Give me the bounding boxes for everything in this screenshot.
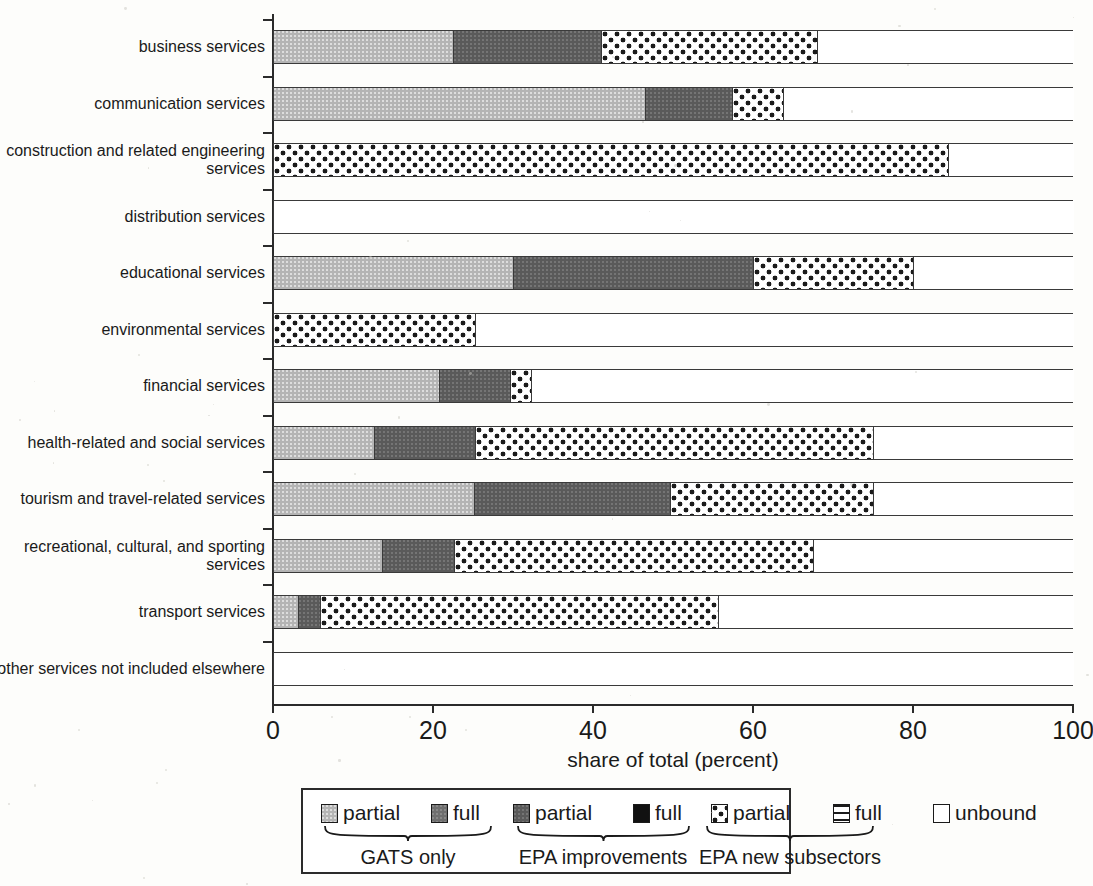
bar-row bbox=[273, 87, 1073, 121]
legend-group-label: GATS only bbox=[360, 846, 455, 869]
bar-outline bbox=[273, 426, 1073, 460]
category-label: distribution services bbox=[0, 208, 265, 226]
bar-segment-unbound bbox=[874, 427, 1074, 459]
legend-item-new-full[interactable]: full bbox=[833, 798, 882, 828]
y-tick bbox=[263, 132, 273, 134]
paper-speck bbox=[850, 483, 853, 486]
y-tick bbox=[263, 245, 273, 247]
paper-speck bbox=[208, 415, 210, 417]
bar-segment-epa-partial bbox=[475, 483, 671, 515]
bar-segment-unbound bbox=[814, 540, 1074, 572]
paper-speck bbox=[316, 388, 317, 389]
legend-item-epa-partial[interactable]: partial bbox=[513, 798, 592, 828]
bar-segment-new-partial bbox=[274, 314, 476, 346]
bar-segment-unbound bbox=[476, 314, 1074, 346]
bar-segment-gats-partial bbox=[274, 540, 383, 572]
bar-row bbox=[273, 652, 1073, 686]
bar-segment-epa-partial bbox=[514, 257, 754, 289]
paper-speck bbox=[907, 64, 909, 66]
paper-speck bbox=[642, 121, 643, 122]
bar-row bbox=[273, 256, 1073, 290]
legend-swatch-unbound-icon bbox=[933, 804, 950, 823]
bar-outline bbox=[273, 313, 1073, 347]
x-tick-label: 40 bbox=[579, 716, 607, 745]
paper-speck bbox=[892, 824, 894, 826]
bar-segment-new-partial bbox=[602, 31, 818, 63]
bar-segment-gats-partial bbox=[274, 257, 514, 289]
x-tick-label: 60 bbox=[739, 716, 767, 745]
paper-speck bbox=[680, 220, 681, 221]
paper-speck bbox=[409, 716, 411, 718]
bar-segment-gats-partial bbox=[274, 370, 440, 402]
paper-speck bbox=[612, 518, 614, 520]
legend-item-epa-full[interactable]: full bbox=[633, 798, 682, 828]
bar-segment-new-partial bbox=[733, 88, 784, 120]
bar-segment-unbound bbox=[949, 144, 1074, 176]
legend-label: partial bbox=[343, 801, 400, 825]
bar-row bbox=[273, 200, 1073, 234]
bar-segment-gats-partial bbox=[274, 596, 299, 628]
bar-outline bbox=[273, 87, 1073, 121]
plot-bars bbox=[273, 14, 1073, 704]
bar-row bbox=[273, 313, 1073, 347]
legend-label: unbound bbox=[955, 801, 1037, 825]
legend-brace-icon bbox=[705, 826, 875, 842]
paper-speck bbox=[469, 372, 472, 375]
category-label: educational services bbox=[0, 264, 265, 282]
category-label: business services bbox=[0, 38, 265, 56]
legend-label: partial bbox=[535, 801, 592, 825]
category-label: environmental services bbox=[0, 321, 265, 339]
paper-speck bbox=[165, 769, 167, 771]
bar-segment-gats-partial bbox=[274, 427, 375, 459]
bar-segment-new-partial bbox=[321, 596, 719, 628]
legend-item-new-partial[interactable]: partial bbox=[711, 798, 790, 828]
x-tick-label: 100 bbox=[1052, 716, 1093, 745]
y-tick bbox=[263, 302, 273, 304]
bar-segment-epa-partial bbox=[454, 31, 602, 63]
legend-item-unbound[interactable]: unbound bbox=[933, 798, 1037, 828]
bar-outline bbox=[273, 595, 1073, 629]
bar-outline bbox=[273, 143, 1073, 177]
y-tick bbox=[263, 415, 273, 417]
y-tick bbox=[263, 528, 273, 530]
legend-item-gats-partial[interactable]: partial bbox=[321, 798, 400, 828]
y-tick bbox=[263, 584, 273, 586]
paper-speck bbox=[143, 877, 145, 879]
chart-area: 020406080100 business servicescommunicat… bbox=[0, 0, 1093, 760]
bar-segment-unbound bbox=[719, 596, 1074, 628]
bar-segment-new-partial bbox=[754, 257, 914, 289]
bar-segment-epa-partial bbox=[299, 596, 321, 628]
x-tick-label: 20 bbox=[419, 716, 447, 745]
category-label: health-related and social services bbox=[0, 434, 265, 452]
bar-segment-gats-partial bbox=[274, 88, 646, 120]
y-tick bbox=[263, 189, 273, 191]
bar-row bbox=[273, 595, 1073, 629]
bar-segment-unbound bbox=[274, 653, 1074, 685]
x-axis-line bbox=[272, 704, 1074, 706]
bar-segment-epa-partial bbox=[383, 540, 455, 572]
legend-swatch-epa-full-icon bbox=[633, 804, 650, 823]
x-tick-label: 0 bbox=[266, 716, 280, 745]
legend-items: partialfullpartialfullpartialfullunbound bbox=[303, 798, 789, 828]
y-tick bbox=[263, 358, 273, 360]
bar-outline bbox=[273, 539, 1073, 573]
bar-row bbox=[273, 482, 1073, 516]
bar-segment-unbound bbox=[274, 201, 1074, 233]
x-tick bbox=[432, 704, 434, 713]
x-tick bbox=[1072, 704, 1074, 713]
bar-segment-new-partial bbox=[476, 427, 874, 459]
paper-speck bbox=[674, 164, 677, 167]
bar-segment-gats-partial bbox=[274, 31, 454, 63]
category-label: transport services bbox=[0, 603, 265, 621]
y-tick bbox=[263, 641, 273, 643]
bar-segment-new-partial bbox=[274, 144, 949, 176]
y-tick bbox=[263, 76, 273, 78]
bar-outline bbox=[273, 652, 1073, 686]
paper-speck bbox=[60, 505, 61, 506]
paper-speck bbox=[246, 883, 247, 884]
legend-group-label: EPA new subsectors bbox=[699, 846, 881, 869]
bar-outline bbox=[273, 30, 1073, 64]
paper-speck bbox=[34, 784, 37, 787]
legend-item-gats-full[interactable]: full bbox=[431, 798, 480, 828]
paper-speck bbox=[54, 410, 55, 411]
